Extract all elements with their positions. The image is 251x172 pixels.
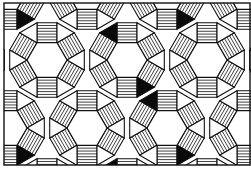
square-hatching <box>0 34 2 58</box>
square-hatching <box>59 170 81 172</box>
square-tile <box>137 169 164 172</box>
blank-triangle-tile <box>27 0 44 2</box>
square-tile <box>0 169 4 172</box>
square-hatching <box>0 61 2 85</box>
square-tile <box>170 169 197 172</box>
square-hatching <box>92 170 114 172</box>
blank-triangle-tile <box>107 0 124 2</box>
square-hatching <box>0 170 2 172</box>
square-hatching <box>139 170 161 172</box>
square-tile <box>57 169 84 172</box>
square-hatching <box>172 170 194 172</box>
tiling-figure <box>0 0 251 172</box>
square-tile <box>10 169 37 172</box>
blank-triangle-tile <box>50 0 67 2</box>
tiling-pattern <box>0 0 251 172</box>
square-tile <box>90 169 117 172</box>
square-tile <box>217 169 244 172</box>
blank-triangle-tile <box>187 0 204 2</box>
square-hatching <box>219 170 241 172</box>
square-tile <box>250 169 251 172</box>
blank-triangle-tile <box>130 0 147 2</box>
square-hatching <box>12 170 34 172</box>
blank-triangle-tile <box>210 0 227 2</box>
